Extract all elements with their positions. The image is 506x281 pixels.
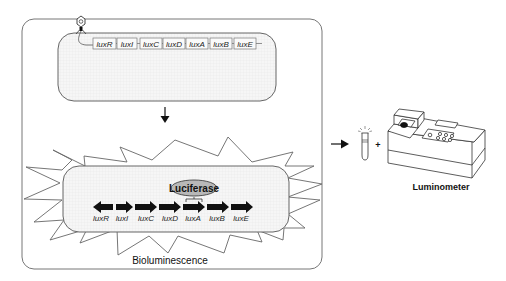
plasmid-gene-label: luxD <box>166 40 182 49</box>
cell-gene-label: luxR <box>93 214 109 223</box>
luminometer-label: Luminometer <box>412 182 470 192</box>
cell-gene-label: luxB <box>209 214 225 223</box>
luminometer-device <box>388 109 485 178</box>
plasmid-gene-label: luxA <box>189 40 205 49</box>
lux-operon-diagram: luxR luxI luxC luxD luxA luxB luxE Lucif… <box>0 0 506 281</box>
cell-gene-label: luxC <box>138 214 154 223</box>
plasmid-gene-label: luxC <box>143 40 159 49</box>
cell-gene-label: luxD <box>162 214 178 223</box>
cell-gene-label: luxE <box>233 214 249 223</box>
plasmid-gene-strip: luxR luxI luxC luxD luxA luxB luxE <box>93 38 262 49</box>
plasmid-gene-label: luxB <box>213 40 229 49</box>
plasmid-gene-label: luxI <box>121 40 134 49</box>
bioluminescence-caption: Bioluminescence <box>132 255 208 266</box>
plus-sign: + <box>375 140 380 150</box>
luciferase-label: Luciferase <box>169 183 219 194</box>
plasmid-gene-label: luxE <box>237 40 253 49</box>
test-tube-icon <box>358 126 372 160</box>
plasmid-gene-label: luxR <box>96 40 112 49</box>
cell-gene-label: luxI <box>116 214 129 223</box>
cell-gene-label: luxA <box>185 214 201 223</box>
right-arrow-icon <box>331 140 349 149</box>
